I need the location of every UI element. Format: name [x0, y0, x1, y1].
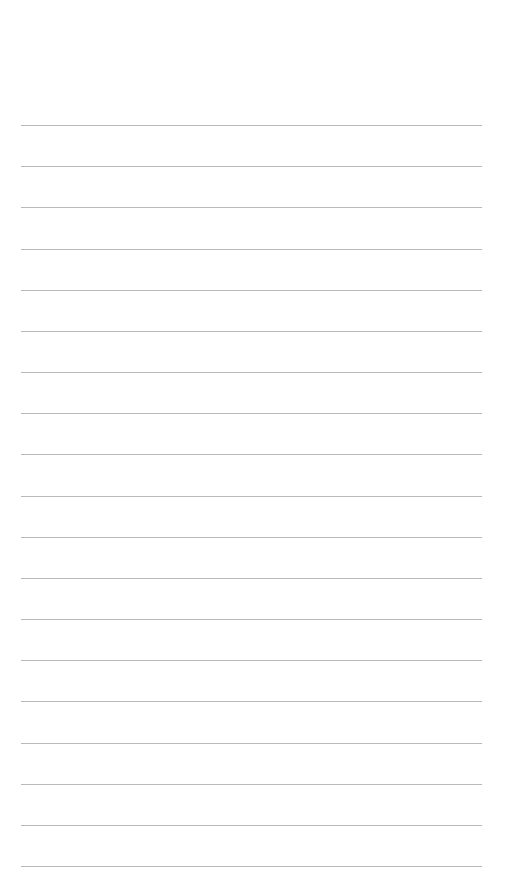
- ruled-line: [21, 249, 482, 250]
- ruled-line: [21, 866, 482, 867]
- ruled-line: [21, 784, 482, 785]
- ruled-line: [21, 743, 482, 744]
- ruled-line: [21, 619, 482, 620]
- ruled-line: [21, 207, 482, 208]
- ruled-line: [21, 331, 482, 332]
- ruled-line: [21, 825, 482, 826]
- ruled-line: [21, 454, 482, 455]
- ruled-line: [21, 372, 482, 373]
- ruled-line: [21, 125, 482, 126]
- ruled-line: [21, 496, 482, 497]
- ruled-line: [21, 290, 482, 291]
- ruled-line: [21, 578, 482, 579]
- ruled-line: [21, 660, 482, 661]
- lined-paper-page: [0, 0, 525, 893]
- ruled-line: [21, 701, 482, 702]
- ruled-line: [21, 537, 482, 538]
- ruled-line: [21, 413, 482, 414]
- ruled-line: [21, 166, 482, 167]
